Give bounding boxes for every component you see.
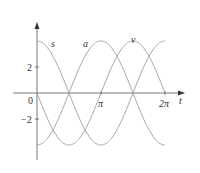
origin-label: 0 [28, 95, 33, 106]
y-tick-2: 2 [27, 62, 32, 73]
x-axis [13, 91, 185, 96]
series-label-s: s [51, 38, 55, 49]
y-tick-neg2: −2 [21, 114, 32, 125]
chart: 2 −2 0 π 2π t s a v [0, 0, 200, 173]
x-axis-label: t [179, 95, 182, 106]
x-tick-2pi: 2π [159, 98, 170, 109]
series-label-v: v [131, 34, 136, 45]
y-axis [35, 22, 40, 160]
x-tick-pi: π [98, 98, 104, 109]
series-label-a: a [83, 38, 88, 49]
